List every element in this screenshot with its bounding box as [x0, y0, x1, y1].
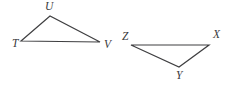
triangle-ZXY-shape — [131, 45, 209, 67]
triangle-TUV-outline — [21, 16, 100, 42]
triangle-TUV-shape — [21, 16, 100, 42]
vertex-label-x: X — [213, 29, 220, 41]
vertex-label-z: Z — [122, 31, 128, 43]
triangle-ZXY-outline — [131, 45, 209, 67]
vertex-label-y: Y — [176, 70, 182, 82]
figure-canvas: T U V Z X Y — [0, 0, 232, 89]
triangles-figure — [0, 0, 232, 89]
vertex-label-v: V — [104, 39, 111, 51]
vertex-label-u: U — [45, 1, 53, 13]
vertex-label-t: T — [12, 38, 18, 50]
